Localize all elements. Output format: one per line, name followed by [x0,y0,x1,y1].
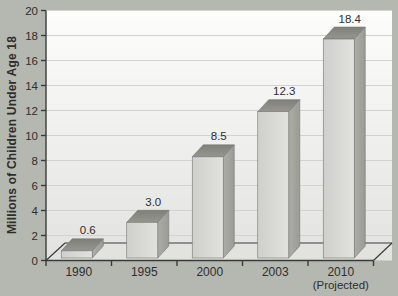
bar-value-label-1995: 3.0 [145,196,161,208]
y-tick-label-18: 18 [25,30,38,42]
bar-side-face [223,145,234,258]
y-tick-label-2: 2 [32,230,38,242]
y-tick-label-16: 16 [25,55,38,67]
bar-front-face [258,112,289,258]
bar-front-face [192,157,223,258]
bar-1995 [127,210,169,258]
y-tick-label-0: 0 [32,255,38,267]
bar-2003 [258,100,300,258]
children-under-18-bar-chart: 0.63.08.512.318.402468101214161820199019… [0,0,398,296]
bar-value-label-2010: 18.4 [339,13,362,25]
y-tick-label-12: 12 [25,105,38,117]
x-tick-label-1995: 1995 [131,265,158,279]
y-axis-title: Millions of Children Under Age 18 [5,36,19,234]
y-tick-label-6: 6 [32,180,38,192]
x-tick-label-2000: 2000 [196,265,223,279]
bar-side-face [289,100,300,258]
y-tick-label-10: 10 [25,130,38,142]
x-tick-sublabel-2010: (Projected) [313,279,369,291]
y-tick-label-8: 8 [32,155,38,167]
bar-front-face [127,222,158,258]
y-tick-label-14: 14 [25,80,38,92]
bar-2010 [323,27,365,258]
figure-panel: 0.63.08.512.318.402468101214161820199019… [0,0,398,296]
bar-side-face [354,27,365,258]
x-tick-label-1990: 1990 [65,265,92,279]
bar-value-label-1990: 0.6 [80,224,96,236]
x-tick-label-2010: 2010 [327,265,354,279]
bar-2000 [192,145,234,258]
bar-value-label-2000: 8.5 [211,130,227,142]
y-tick-label-20: 20 [25,5,38,17]
bar-front-face [61,251,92,258]
bar-front-face [323,39,354,258]
x-tick-label-2003: 2003 [262,265,289,279]
bar-value-label-2003: 12.3 [273,85,295,97]
y-tick-label-4: 4 [32,205,39,217]
